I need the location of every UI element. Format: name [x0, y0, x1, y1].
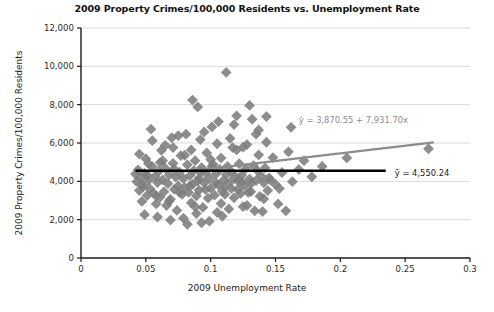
x-tick-label: 0.2	[333, 264, 347, 274]
data-point	[223, 204, 234, 215]
data-point	[283, 146, 294, 157]
mean-value-label: ȳ = 4,550.24	[395, 168, 450, 178]
data-point	[172, 205, 183, 216]
data-point	[168, 142, 179, 153]
data-point	[261, 111, 272, 122]
data-point	[423, 143, 434, 154]
data-point	[247, 114, 258, 125]
data-point	[152, 212, 163, 223]
y-tick-label: 10,000	[44, 61, 74, 71]
data-point	[196, 217, 207, 228]
data-point	[306, 171, 317, 182]
x-tick-label: 0.05	[136, 264, 155, 274]
y-tick-label: 0	[69, 253, 74, 263]
data-point	[287, 176, 298, 187]
chart-figure: 2009 Property Crimes/100,000 Residents v…	[0, 0, 494, 312]
data-point	[257, 206, 268, 217]
y-tick-label: 2,000	[49, 215, 74, 225]
data-point	[253, 149, 264, 160]
data-point	[204, 216, 215, 227]
x-tick-label: 0.1	[204, 264, 218, 274]
data-point	[165, 215, 176, 226]
scatter-plot: 02,0004,0006,0008,00010,00012,00000.050.…	[0, 0, 494, 312]
data-point	[244, 100, 255, 111]
x-tick-label: 0.25	[396, 264, 415, 274]
y-tick-label: 12,000	[44, 23, 74, 33]
x-tick-label: 0.15	[266, 264, 285, 274]
data-point	[229, 119, 240, 130]
data-point	[273, 199, 284, 210]
y-tick-label: 6,000	[49, 138, 74, 148]
y-tick-label: 4,000	[49, 176, 74, 186]
data-point	[280, 205, 291, 216]
y-tick-label: 8,000	[49, 100, 74, 110]
axis-tick-labels: 02,0004,0006,0008,00010,00012,00000.050.…	[44, 23, 477, 274]
x-axis-title: 2009 Unemployment Rate	[188, 283, 307, 293]
data-point	[146, 124, 157, 135]
data-point	[221, 67, 232, 78]
data-point	[216, 153, 227, 164]
regression-equation-label: ŷ = 3,870.55 + 7,931.70x	[299, 115, 408, 125]
y-axis-title: 2009 Property Crimes/100,000 Residents	[14, 50, 24, 235]
x-tick-label: 0.3	[463, 264, 477, 274]
data-point	[293, 164, 304, 175]
data-point	[261, 137, 272, 148]
data-point	[225, 133, 236, 144]
data-point	[212, 138, 223, 149]
data-point	[286, 122, 297, 133]
x-tick-label: 0	[78, 264, 83, 274]
data-point	[181, 129, 192, 140]
data-point	[277, 167, 288, 178]
data-point	[139, 209, 150, 220]
data-point	[231, 110, 242, 121]
data-point	[147, 135, 158, 146]
